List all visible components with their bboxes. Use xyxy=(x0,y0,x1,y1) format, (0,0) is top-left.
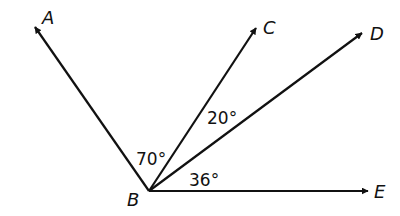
angle-label-abc: 70° xyxy=(136,149,166,169)
angle-diagram: A C D E B 70° 20° 36° xyxy=(0,0,400,216)
ray-BD xyxy=(149,33,362,191)
point-label-c: C xyxy=(263,17,276,38)
point-label-a: A xyxy=(41,7,54,28)
ray-BA xyxy=(35,27,149,191)
point-label-d: D xyxy=(370,23,384,44)
angle-label-dbe: 36° xyxy=(189,170,219,190)
point-label-e: E xyxy=(374,181,386,202)
angle-label-cbd: 20° xyxy=(207,108,237,128)
vertex-label-b: B xyxy=(127,189,139,210)
